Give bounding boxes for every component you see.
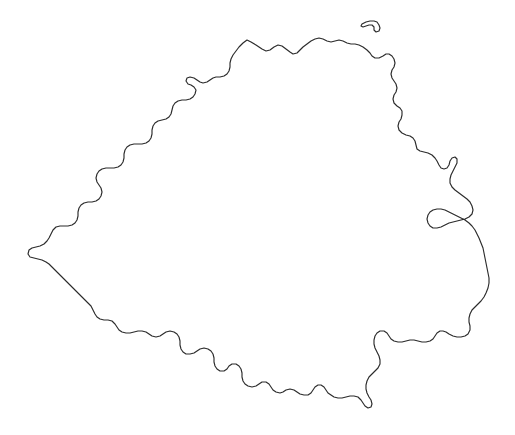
outline-map-figure: Northern Ireland Blank coastline and bor… xyxy=(0,0,515,435)
map-svg-canvas xyxy=(0,0,515,435)
